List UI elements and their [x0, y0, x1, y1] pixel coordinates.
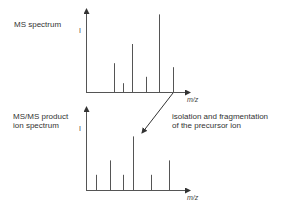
msms-y-axis-label: I	[79, 125, 81, 132]
ms-y-axis-label: I	[79, 27, 81, 34]
ms-msms-diagram: I m/z I m/z	[0, 0, 282, 207]
ms-peaks	[115, 14, 174, 92]
msms-peaks	[97, 136, 170, 190]
fragmentation-arrow	[142, 93, 173, 133]
ms-x-axis-label: m/z	[187, 96, 199, 103]
msms-x-axis-label: m/z	[187, 194, 199, 201]
